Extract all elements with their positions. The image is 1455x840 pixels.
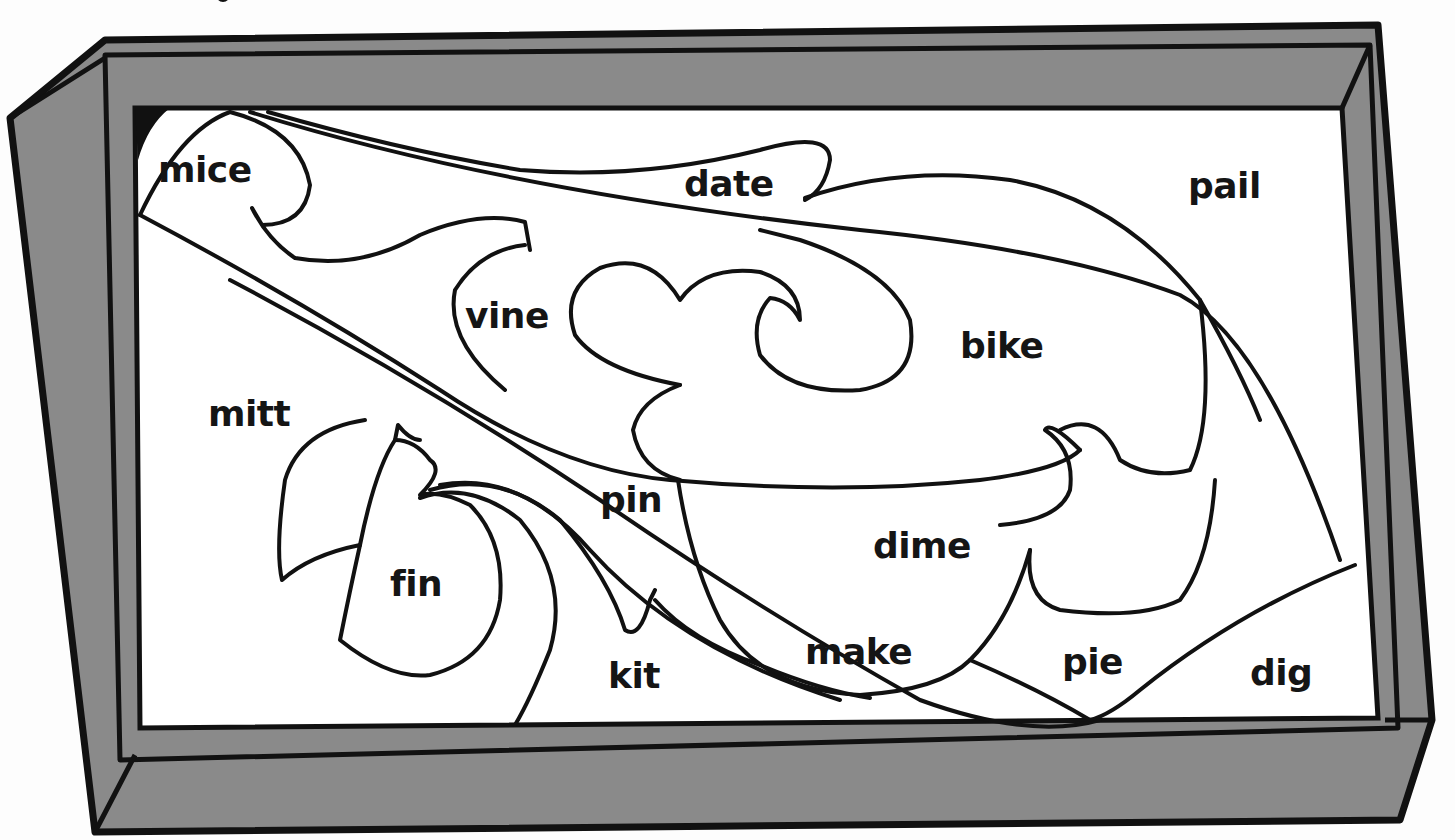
word-vine[interactable]: vine (465, 298, 549, 334)
word-date[interactable]: date (684, 166, 774, 202)
word-pail[interactable]: pail (1188, 168, 1261, 204)
word-mice[interactable]: mice (158, 152, 252, 188)
word-kit[interactable]: kit (608, 658, 660, 694)
word-bike[interactable]: bike (960, 328, 1044, 364)
word-make[interactable]: make (805, 634, 912, 670)
word-dime[interactable]: dime (873, 528, 971, 564)
word-pie[interactable]: pie (1062, 644, 1123, 680)
word-pin[interactable]: pin (600, 482, 662, 518)
word-mitt[interactable]: mitt (208, 396, 290, 432)
word-dig[interactable]: dig (1250, 655, 1312, 691)
word-fin[interactable]: fin (390, 566, 442, 602)
